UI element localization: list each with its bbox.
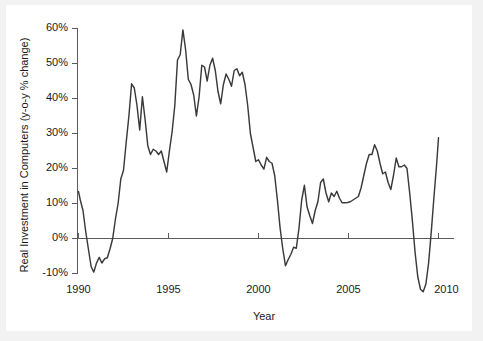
y-tick-label-neg10: -10% — [42, 266, 68, 278]
y-tick-label-50: 50% — [46, 56, 68, 68]
series-line-real-investment-computers — [79, 30, 439, 292]
x-axis-title: Year — [253, 310, 276, 322]
x-tick-label-1990: 1990 — [66, 283, 90, 295]
y-tick-label-60: 60% — [46, 21, 68, 33]
y-tick-label-10: 10% — [46, 196, 68, 208]
y-tick-group: 60% 50% 40% 30% 20% 10% 0% -10% — [42, 21, 77, 278]
x-tick-label-2000: 2000 — [246, 283, 270, 295]
figure-root: Real Investment in Computers (y-o-y % ch… — [0, 0, 483, 341]
x-tick-label-2010: 2010 — [434, 283, 458, 295]
y-axis-title: Real Investment in Computers (y-o-y % ch… — [18, 38, 30, 273]
line-chart: Real Investment in Computers (y-o-y % ch… — [6, 5, 472, 331]
x-tick-label-2005: 2005 — [336, 283, 360, 295]
x-tick-label-1995: 1995 — [156, 283, 180, 295]
x-tick-group: 1990 1995 2000 2005 2010 — [66, 233, 458, 295]
y-tick-label-40: 40% — [46, 91, 68, 103]
y-tick-label-20: 20% — [46, 161, 68, 173]
y-tick-label-0: 0% — [52, 231, 68, 243]
chart-panel: Real Investment in Computers (y-o-y % ch… — [6, 5, 472, 331]
y-tick-label-30: 30% — [46, 126, 68, 138]
